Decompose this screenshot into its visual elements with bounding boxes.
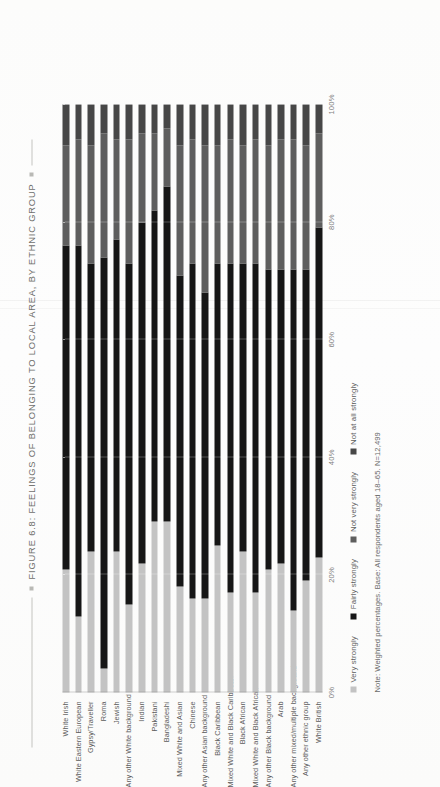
bar-segment — [151, 133, 158, 209]
axis-tick-label: 0% — [326, 686, 335, 697]
bar-segment — [75, 616, 82, 692]
legend-swatch-icon — [350, 536, 356, 542]
bar-segment — [189, 104, 196, 139]
category-label: White Irish — [62, 697, 69, 787]
bar-segment — [239, 551, 246, 692]
bar-segment — [163, 104, 170, 128]
bar-segment — [290, 610, 297, 692]
bar-segment — [138, 563, 145, 692]
legend-item: Very strongly — [348, 636, 357, 692]
bar-segment — [214, 545, 221, 692]
table-row — [100, 104, 107, 692]
bar-segment — [75, 104, 82, 139]
table-row — [252, 104, 259, 692]
legend-label: Not very strongly — [348, 471, 357, 531]
bar-segment — [87, 104, 94, 145]
category-label: Arab — [277, 697, 284, 787]
legend-item: Not at all strongly — [348, 382, 357, 454]
axis-tick-label: 80% — [326, 214, 335, 230]
axis-tick-label: 100% — [326, 94, 335, 114]
chart-plot-area — [62, 104, 322, 692]
bar-segment — [125, 263, 132, 604]
bar-segment — [62, 145, 69, 245]
bar-segment — [315, 133, 322, 227]
bar-segment — [252, 592, 259, 692]
axis-tick-label: 60% — [326, 331, 335, 347]
bar-segment — [227, 592, 234, 692]
category-label: Mixed White and Black Caribbean — [227, 697, 234, 787]
bar-segment — [277, 139, 284, 268]
table-row — [163, 104, 170, 692]
stacked-bars — [62, 104, 322, 692]
chart-legend: Very stronglyFairly stronglyNot very str… — [348, 92, 357, 692]
bar-segment — [227, 104, 234, 139]
bar-segment — [290, 269, 297, 610]
bar-segment — [315, 557, 322, 692]
bar-segment — [138, 104, 145, 133]
bar-segment — [125, 139, 132, 262]
legend-item: Not very strongly — [348, 471, 357, 541]
table-row — [227, 104, 234, 692]
bar-segment — [277, 563, 284, 692]
bar-segment — [176, 586, 183, 692]
legend-item: Fairly strongly — [348, 559, 357, 619]
title-dot-left-icon — [29, 586, 33, 590]
bar-segment — [302, 580, 309, 692]
bar-segment — [214, 263, 221, 545]
category-label: Any other Black background — [265, 697, 272, 787]
bar-segment — [87, 263, 94, 551]
bar-segment — [265, 269, 272, 569]
table-row — [151, 104, 158, 692]
axis-tick-label: 20% — [326, 567, 335, 583]
bar-segment — [265, 104, 272, 145]
figure-note: Note: Weighted percentages. Base: All re… — [372, 432, 381, 692]
table-row — [265, 104, 272, 692]
legend-swatch-icon — [350, 613, 356, 619]
table-row — [302, 104, 309, 692]
bar-segment — [138, 222, 145, 563]
legend-label: Not at all strongly — [348, 382, 357, 444]
bar-segment — [62, 569, 69, 692]
table-row — [176, 104, 183, 692]
category-label: Chinese — [189, 697, 196, 787]
bar-segment — [125, 604, 132, 692]
bar-segment — [277, 104, 284, 139]
bar-segment — [227, 263, 234, 592]
bar-segment — [113, 104, 120, 139]
bar-segment — [62, 245, 69, 568]
bar-segment — [176, 145, 183, 274]
bar-segment — [87, 551, 94, 692]
table-row — [87, 104, 94, 692]
bar-segment — [290, 104, 297, 139]
table-row — [189, 104, 196, 692]
bar-segment — [151, 104, 158, 133]
bar-segment — [113, 139, 120, 239]
bar-segment — [189, 139, 196, 262]
bar-segment — [125, 104, 132, 139]
bar-segment — [302, 269, 309, 581]
category-label: Any other ethnic group — [302, 697, 309, 787]
bar-segment — [214, 145, 221, 263]
category-label: Gypsy/Traveller — [87, 697, 94, 787]
axis-tick-label: 40% — [326, 449, 335, 465]
bar-segment — [290, 139, 297, 268]
bar-segment — [252, 263, 259, 592]
bar-segment — [315, 104, 322, 133]
bar-segment — [189, 598, 196, 692]
category-label: Roma — [100, 697, 107, 787]
category-label: Jewish — [113, 697, 120, 787]
bar-segment — [151, 521, 158, 692]
title-rule-right — [31, 139, 32, 165]
figure-title-row: FIGURE 6.8: FEELINGS OF BELONGING TO LOC… — [26, 37, 36, 747]
bar-segment — [163, 186, 170, 521]
table-row — [315, 104, 322, 692]
figure-inner: FIGURE 6.8: FEELINGS OF BELONGING TO LOC… — [0, 0, 440, 787]
bar-segment — [75, 139, 82, 245]
bar-segment — [138, 133, 145, 221]
category-label: Pakistani — [151, 697, 158, 787]
bar-segment — [214, 104, 221, 145]
category-label: White Eastern European — [75, 697, 82, 787]
bar-segment — [151, 210, 158, 522]
bar-segment — [75, 245, 82, 615]
table-row — [75, 104, 82, 692]
